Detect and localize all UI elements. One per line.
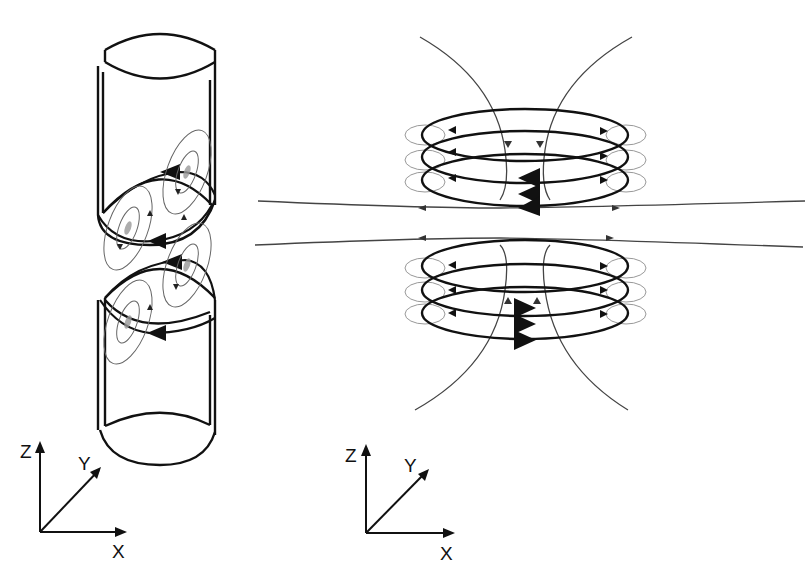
right-panel: Z Y X <box>255 37 805 564</box>
left-z-axis-label: Z <box>20 441 32 462</box>
outer-field-arrows <box>418 141 620 304</box>
lower-cylinder <box>98 269 215 465</box>
right-z-axis-label: Z <box>345 445 357 466</box>
left-y-axis-label: Y <box>78 453 91 474</box>
left-x-axis-label: X <box>112 541 125 562</box>
field-diagram: Z Y X <box>0 0 809 576</box>
left-panel: Z Y X <box>20 34 221 562</box>
upper-cylinder <box>98 34 215 245</box>
lower-coil-arrowheads <box>448 261 608 350</box>
right-y-axis-label: Y <box>404 455 417 476</box>
right-x-axis-label: X <box>440 543 453 564</box>
outer-field-lines <box>255 37 805 410</box>
